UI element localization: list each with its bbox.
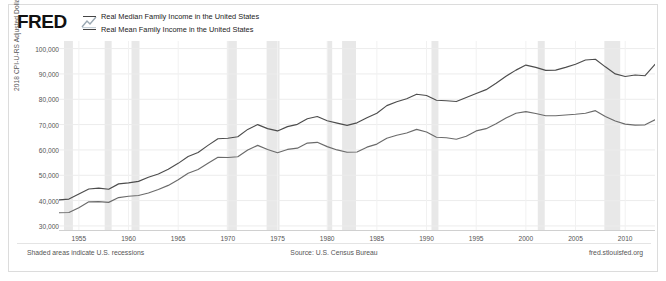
y-tick-label: 90,000 (15, 70, 59, 77)
chart-header: FRED Real Median Family Income in the Un… (9, 5, 659, 39)
x-tick-label: 1995 (469, 235, 484, 242)
x-tick-label: 2010 (618, 235, 633, 242)
footer-source: Source: U.S. Census Bureau (290, 249, 377, 256)
chart-frame: FRED Real Median Family Income in the Un… (8, 4, 658, 272)
chart-legend: Real Median Family Income in the United … (83, 11, 259, 37)
legend-label-mean: Real Mean Family Income in the United St… (101, 25, 253, 34)
y-tick-label: 60,000 (15, 146, 59, 153)
y-axis-ticks: 30,00040,00050,00060,00070,00080,00090,0… (9, 39, 59, 239)
x-tick-label: 1985 (370, 235, 385, 242)
y-tick-label: 40,000 (15, 197, 59, 204)
x-tick-label: 1960 (121, 235, 136, 242)
legend-label-median: Real Median Family Income in the United … (101, 12, 259, 21)
chart-svg (59, 41, 655, 231)
x-tick-label: 1990 (419, 235, 434, 242)
footer-recession-note: Shaded areas indicate U.S. recessions (27, 249, 144, 256)
x-tick-label: 2005 (568, 235, 583, 242)
x-tick-label: 1970 (221, 235, 236, 242)
legend-item-median[interactable]: Real Median Family Income in the United … (83, 11, 259, 22)
legend-item-mean[interactable]: Real Mean Family Income in the United St… (83, 24, 259, 35)
x-tick-label: 1965 (171, 235, 186, 242)
y-tick-label: 30,000 (15, 222, 59, 229)
y-tick-label: 80,000 (15, 96, 59, 103)
plot-area[interactable] (59, 41, 655, 231)
legend-swatch-mean (83, 29, 96, 30)
y-tick-label: 100,000 (15, 45, 59, 52)
chart-footer: Shaded areas indicate U.S. recessions So… (9, 243, 659, 271)
x-tick-label: 1955 (72, 235, 87, 242)
y-tick-label: 50,000 (15, 172, 59, 179)
fred-chart-card: FRED Real Median Family Income in the Un… (0, 0, 666, 281)
footer-url[interactable]: fred.stlouisfed.org (589, 249, 643, 256)
legend-swatch-median (83, 16, 96, 17)
y-tick-label: 70,000 (15, 121, 59, 128)
x-tick-label: 1975 (270, 235, 285, 242)
x-tick-label: 2000 (519, 235, 534, 242)
footer-divider (17, 243, 651, 244)
fred-logo: FRED (17, 12, 67, 31)
x-tick-label: 1980 (320, 235, 335, 242)
plot-container: 2018 CPI-U-RS Adjusted Dollars 30,00040,… (9, 39, 659, 239)
